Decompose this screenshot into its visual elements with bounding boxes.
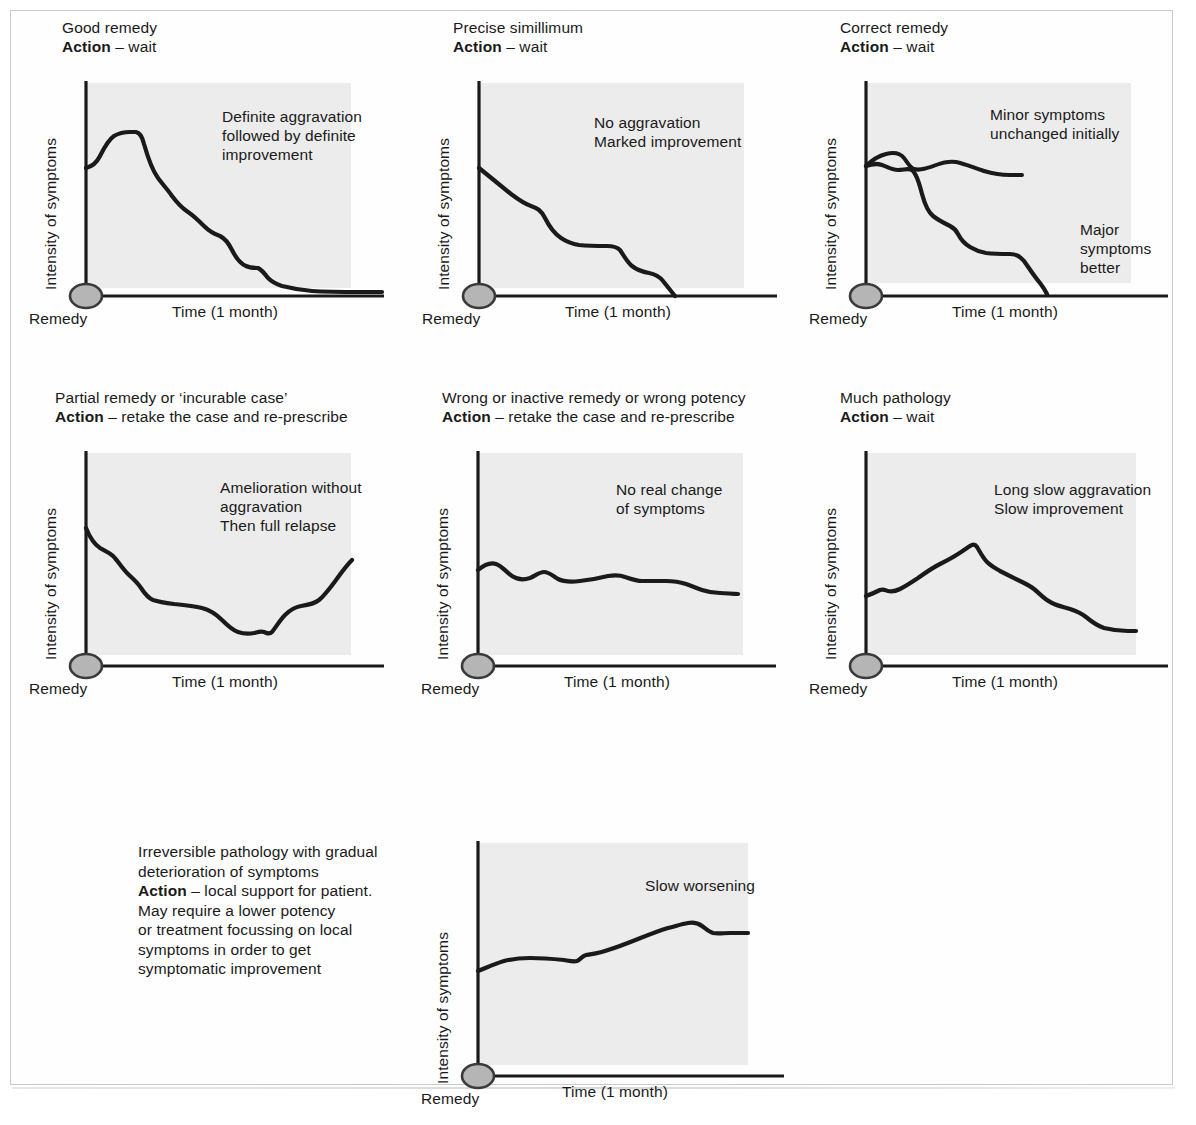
- panel-note: Irreversible pathology with gradual dete…: [138, 842, 418, 979]
- panel-title-line1: Wrong or inactive remedy or wrong potenc…: [442, 388, 746, 407]
- action-rest: – wait: [111, 38, 157, 55]
- panel-title: Good remedy Action – wait: [62, 18, 157, 56]
- panel-title-action-line: Action – wait: [840, 407, 951, 426]
- annotation-major-symptoms: Major symptoms better: [1080, 220, 1151, 277]
- note-line-6: symptomatic improvement: [138, 959, 418, 979]
- action-word: Action: [55, 408, 104, 425]
- action-rest: – retake the case and re-prescribe: [104, 408, 348, 425]
- action-rest: – wait: [889, 38, 935, 55]
- annotation: No aggravation Marked improvement: [594, 113, 741, 151]
- action-word: Action: [840, 408, 889, 425]
- action-word: Action: [453, 38, 502, 55]
- x-axis-label: Time (1 month): [564, 673, 670, 691]
- panel-title-line1: Precise simillimum: [453, 18, 583, 37]
- plot-svg: [448, 448, 778, 688]
- action-word: Action: [138, 882, 187, 899]
- action-word: Action: [62, 38, 111, 55]
- plot-area: [448, 448, 778, 688]
- note-line-3: May require a lower potency: [138, 901, 418, 921]
- x-axis-label: Time (1 month): [952, 303, 1058, 321]
- annotation: Definite aggravation followed by definit…: [222, 107, 362, 164]
- panel-correct-remedy: Correct remedy Action – wait Intensity o…: [790, 0, 1185, 360]
- x-axis-label: Time (1 month): [172, 673, 278, 691]
- annotation: Amelioration without aggravation Then fu…: [220, 478, 362, 535]
- remedy-dot-icon: [462, 654, 494, 678]
- panel-good-remedy: Good remedy Action – wait Intensity of s…: [0, 0, 400, 360]
- note-line-5: symptoms in order to get: [138, 940, 418, 960]
- origin-label: Remedy: [422, 310, 480, 328]
- panel-wrong-remedy: Wrong or inactive remedy or wrong potenc…: [400, 368, 795, 728]
- panel-title-action-line: Action – wait: [840, 37, 948, 56]
- remedy-dot-icon: [850, 284, 882, 308]
- origin-label: Remedy: [421, 1090, 479, 1108]
- panel-title: Wrong or inactive remedy or wrong potenc…: [442, 388, 746, 426]
- action-rest: – wait: [889, 408, 935, 425]
- panel-title: Much pathology Action – wait: [840, 388, 951, 426]
- remedy-dot-icon: [462, 1064, 494, 1088]
- panel-title: Correct remedy Action – wait: [840, 18, 948, 56]
- remedy-dot-icon: [70, 284, 102, 308]
- note-line-1: Irreversible pathology with gradual: [138, 842, 418, 862]
- panel-irreversible-pathology: Irreversible pathology with gradual dete…: [0, 790, 800, 1120]
- panel-title-line1: Good remedy: [62, 18, 157, 37]
- origin-label: Remedy: [29, 680, 87, 698]
- action-rest: – wait: [502, 38, 548, 55]
- panel-title-line1: Much pathology: [840, 388, 951, 407]
- panel-title-action-line: Action – retake the case and re-prescrib…: [55, 407, 348, 426]
- action-rest: – retake the case and re-prescribe: [491, 408, 735, 425]
- panel-title-action-line: Action – wait: [453, 37, 583, 56]
- remedy-dot-icon: [463, 284, 495, 308]
- annotation: No real change of symptoms: [616, 480, 723, 518]
- note-action-line: Action – local support for patient.: [138, 881, 418, 901]
- panel-title-line1: Correct remedy: [840, 18, 948, 37]
- note-line-2: deterioration of symptoms: [138, 862, 418, 882]
- annotation: Long slow aggravation Slow improvement: [994, 480, 1151, 518]
- panel-much-pathology: Much pathology Action – wait Intensity o…: [790, 368, 1185, 728]
- panel-precise-simillimum: Precise simillimum Action – wait Intensi…: [400, 0, 795, 360]
- remedy-dot-icon: [70, 654, 102, 678]
- x-axis-label: Time (1 month): [952, 673, 1058, 691]
- panel-title-action-line: Action – wait: [62, 37, 157, 56]
- annotation: Slow worsening: [645, 876, 755, 895]
- origin-label: Remedy: [809, 680, 867, 698]
- origin-label: Remedy: [29, 310, 87, 328]
- annotation-minor-symptoms: Minor symptoms unchanged initially: [990, 105, 1119, 143]
- remedy-dot-icon: [850, 654, 882, 678]
- panel-partial-remedy: Partial remedy or ‘incurable case’ Actio…: [0, 368, 400, 728]
- origin-label: Remedy: [421, 680, 479, 698]
- panel-title: Precise simillimum Action – wait: [453, 18, 583, 56]
- panel-title-line1: Partial remedy or ‘incurable case’: [55, 388, 348, 407]
- action-word: Action: [840, 38, 889, 55]
- note-line-4: or treatment focussing on local: [138, 920, 418, 940]
- x-axis-label: Time (1 month): [565, 303, 671, 321]
- action-word: Action: [442, 408, 491, 425]
- panel-title-action-line: Action – retake the case and re-prescrib…: [442, 407, 746, 426]
- x-axis-label: Time (1 month): [562, 1083, 668, 1101]
- origin-label: Remedy: [809, 310, 867, 328]
- panel-title: Partial remedy or ‘incurable case’ Actio…: [55, 388, 348, 426]
- action-rest: – local support for patient.: [187, 882, 373, 899]
- x-axis-label: Time (1 month): [172, 303, 278, 321]
